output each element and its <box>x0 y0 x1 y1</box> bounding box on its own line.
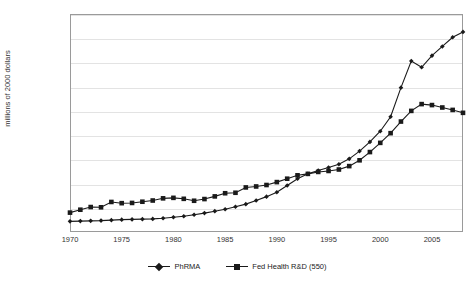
x-axis-tick-label: 2005 <box>412 236 452 244</box>
gridline <box>71 160 462 161</box>
legend-label: Fed Health R&D (550) <box>252 262 326 271</box>
gridline <box>71 63 462 64</box>
x-axis-tick-label: 1975 <box>102 236 142 244</box>
plot-area <box>70 14 463 232</box>
legend-item-phrma[interactable]: PhRMA <box>148 262 200 271</box>
chart-legend: PhRMA Fed Health R&D (550) <box>0 262 475 271</box>
gridline <box>71 112 462 113</box>
x-axis-tick-label: 1990 <box>257 236 297 244</box>
legend-marker-square-icon <box>226 262 248 271</box>
legend-item-fed-health-rd[interactable]: Fed Health R&D (550) <box>226 262 326 271</box>
x-axis-tick-label: 1970 <box>50 236 90 244</box>
legend-marker-diamond-icon <box>148 262 170 271</box>
gridline <box>71 15 462 16</box>
x-axis-tick-label: 1980 <box>153 236 193 244</box>
x-axis-tick-label: 1985 <box>205 236 245 244</box>
gridline <box>71 185 462 186</box>
legend-label: PhRMA <box>174 262 200 271</box>
gridline <box>71 88 462 89</box>
x-axis-tick-label: 2000 <box>360 236 400 244</box>
x-axis-tick-label: 1995 <box>309 236 349 244</box>
gridline <box>71 136 462 137</box>
gridline <box>71 39 462 40</box>
gridline <box>71 209 462 210</box>
chart-container: millions of 2000 dollars PhRMA Fed Healt… <box>0 0 475 286</box>
y-axis-title: millions of 2000 dollars <box>3 29 12 149</box>
